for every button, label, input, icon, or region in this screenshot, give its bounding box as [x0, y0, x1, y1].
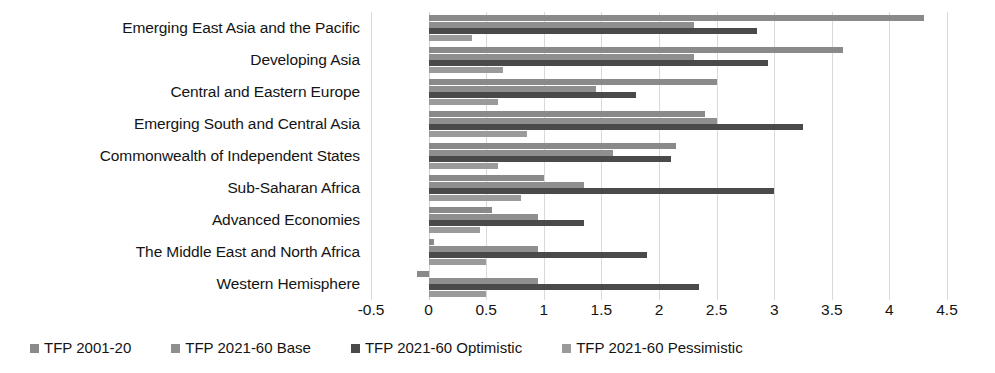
plot-area [371, 12, 947, 300]
square-marker-icon [30, 344, 39, 353]
category-label: Emerging East Asia and the Pacific [122, 20, 360, 36]
legend-item[interactable]: TFP 2001-20 [30, 340, 131, 356]
bar [429, 67, 504, 73]
bar [429, 47, 844, 53]
x-axis-tick: 4 [885, 300, 894, 320]
x-axis-tick: -0.5 [358, 300, 385, 320]
legend-label: TFP 2021-60 Optimistic [365, 340, 522, 356]
bar [429, 86, 596, 92]
bar [429, 92, 636, 98]
legend-label: TFP 2021-60 Base [185, 340, 311, 356]
bar-group [371, 12, 947, 44]
x-axis-tick: 0.5 [475, 300, 497, 320]
bar [429, 150, 613, 156]
gridline [947, 12, 948, 300]
category-label: Sub-Saharan Africa [227, 180, 360, 196]
legend-item[interactable]: TFP 2021-60 Pessimistic [562, 340, 742, 356]
category-label: Advanced Economies [212, 212, 360, 228]
bar-group [371, 44, 947, 76]
bar [417, 271, 429, 277]
bar [429, 111, 705, 117]
x-axis-tick: 1 [539, 300, 548, 320]
bar [429, 278, 538, 284]
chart-legend: TFP 2001-20TFP 2021-60 BaseTFP 2021-60 O… [30, 336, 965, 360]
category-label: Commonwealth of Independent States [100, 148, 360, 164]
bar [429, 131, 527, 137]
bar [429, 239, 435, 245]
bar [429, 60, 769, 66]
bar [429, 22, 694, 28]
bar-chart: Emerging East Asia and the PacificDevelo… [0, 0, 995, 373]
bar [429, 54, 694, 60]
bar [429, 156, 671, 162]
category-label: Central and Eastern Europe [170, 84, 360, 100]
bar [429, 220, 585, 226]
bar [429, 175, 544, 181]
bar [429, 15, 924, 21]
bar [429, 28, 757, 34]
square-marker-icon [351, 344, 360, 353]
bar [429, 118, 717, 124]
bar-group [371, 108, 947, 140]
bar [429, 214, 538, 220]
bar [429, 124, 803, 130]
bar-group [371, 204, 947, 236]
bar [429, 163, 498, 169]
bar-group [371, 140, 947, 172]
bar-group [371, 76, 947, 108]
square-marker-icon [171, 344, 180, 353]
bar [429, 143, 677, 149]
bar [429, 246, 538, 252]
bar-group [371, 268, 947, 300]
x-axis-tick: 2 [655, 300, 664, 320]
bar [429, 252, 648, 258]
square-marker-icon [562, 344, 571, 353]
bar [429, 188, 775, 194]
x-axis-tick: 1.5 [591, 300, 613, 320]
x-axis-tick: 3.5 [821, 300, 843, 320]
bar [429, 227, 481, 233]
legend-label: TFP 2021-60 Pessimistic [576, 340, 742, 356]
category-axis: Emerging East Asia and the PacificDevelo… [0, 12, 368, 300]
bar-group [371, 236, 947, 268]
bar [429, 195, 521, 201]
bar [429, 207, 492, 213]
legend-label: TFP 2001-20 [44, 340, 131, 356]
bar [429, 79, 717, 85]
bar [429, 259, 487, 265]
category-label: Western Hemisphere [217, 276, 361, 292]
x-axis-tick-labels: -0.500.511.522.533.544.5 [371, 300, 947, 324]
x-axis-tick: 2.5 [706, 300, 728, 320]
bar [429, 182, 585, 188]
bar [429, 284, 700, 290]
x-axis-tick: 0 [424, 300, 433, 320]
bar-group [371, 172, 947, 204]
category-label: Developing Asia [250, 52, 360, 68]
category-label: Emerging South and Central Asia [134, 116, 360, 132]
bar [429, 99, 498, 105]
x-axis-tick: 4.5 [936, 300, 958, 320]
bar [429, 291, 487, 297]
x-axis-tick: 3 [770, 300, 779, 320]
category-label: The Middle East and North Africa [136, 244, 360, 260]
bar [429, 35, 473, 41]
legend-item[interactable]: TFP 2021-60 Optimistic [351, 340, 522, 356]
legend-item[interactable]: TFP 2021-60 Base [171, 340, 311, 356]
